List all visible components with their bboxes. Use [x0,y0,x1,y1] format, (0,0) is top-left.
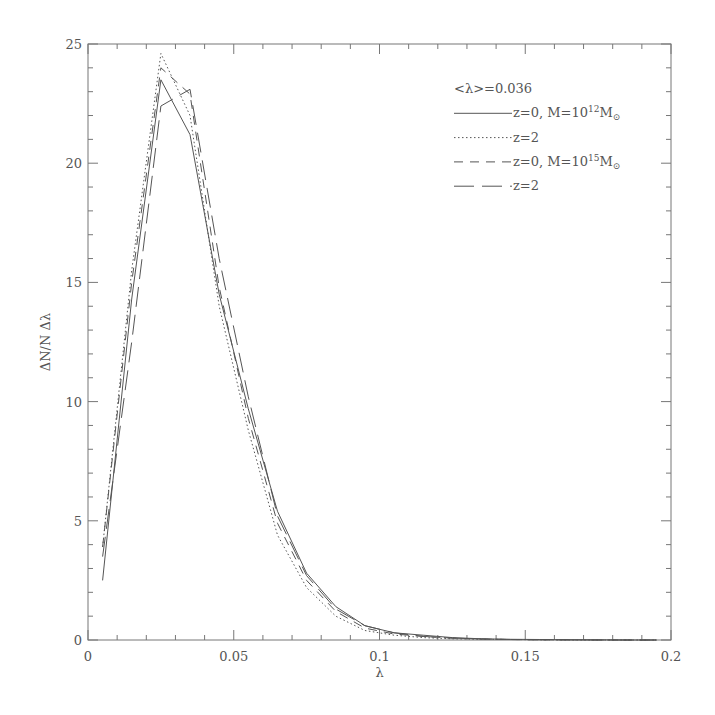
legend-label-3: z=2 [513,178,539,193]
series-line-3 [103,89,657,640]
legend-label-1: z=2 [513,130,539,145]
x-tick-label: 0 [84,649,92,664]
y-tick-label: 25 [65,37,82,52]
y-tick-label: 5 [74,514,82,529]
x-axis-label: λ [375,665,383,680]
plot-frame [88,44,671,640]
series-group [103,54,657,641]
legend-label-2: z=0, M=1015M⊙ [513,153,620,171]
x-tick-label: 0.15 [511,649,540,664]
series-line-1 [103,54,657,641]
y-tick-label: 10 [65,395,82,410]
x-tick-label: 0.1 [369,649,390,664]
y-tick-label: 0 [74,633,82,648]
mean-lambda-annotation: <λ>=0.036 [454,81,532,96]
legend: <λ>=0.036z=0, M=1012M⊙z=2z=0, M=1015M⊙z=… [454,81,620,193]
x-tick-label: 0.2 [661,649,682,664]
x-tick-label: 0.05 [219,649,248,664]
axes: 00.050.10.150.20510152025λΔN/N Δλ [38,37,681,680]
line-chart: 00.050.10.150.20510152025λΔN/N Δλ <λ>=0.… [0,0,715,715]
y-tick-label: 15 [65,275,82,290]
y-tick-label: 20 [65,156,82,171]
legend-label-0: z=0, M=1012M⊙ [513,104,620,122]
y-axis-label: ΔN/N Δλ [38,313,53,371]
